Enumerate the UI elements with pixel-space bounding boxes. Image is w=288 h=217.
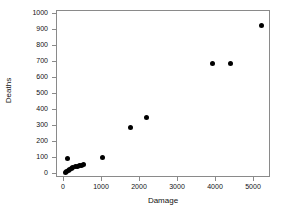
- plot-panel: [56, 10, 270, 177]
- data-point: [144, 115, 149, 120]
- x-tick: [63, 177, 64, 181]
- x-tick-label: 1000: [81, 182, 121, 191]
- y-tick-label: 800: [0, 41, 48, 49]
- data-point: [228, 61, 233, 66]
- scatter-chart: 010002000300040005000 010020030040050060…: [0, 0, 288, 217]
- y-axis-title: Deaths: [4, 67, 13, 115]
- y-tick: [52, 45, 56, 46]
- y-tick: [52, 61, 56, 62]
- y-tick-label: 700: [0, 57, 48, 65]
- data-points-layer: [57, 11, 269, 176]
- data-point: [128, 125, 133, 130]
- data-point: [100, 155, 105, 160]
- data-point: [65, 156, 70, 161]
- y-tick: [52, 141, 56, 142]
- y-tick: [52, 13, 56, 14]
- x-tick: [215, 177, 216, 181]
- y-tick: [52, 109, 56, 110]
- data-point: [210, 61, 215, 66]
- data-point: [81, 162, 86, 167]
- x-tick-label: 0: [43, 182, 83, 191]
- y-tick-label: 1000: [0, 9, 48, 17]
- x-tick: [177, 177, 178, 181]
- x-tick: [253, 177, 254, 181]
- data-point: [259, 23, 264, 28]
- x-tick-label: 3000: [157, 182, 197, 191]
- y-tick: [52, 157, 56, 158]
- y-tick: [52, 173, 56, 174]
- x-tick-label: 2000: [119, 182, 159, 191]
- x-tick: [139, 177, 140, 181]
- x-tick-label: 4000: [195, 182, 235, 191]
- y-tick: [52, 93, 56, 94]
- x-tick-label: 5000: [233, 182, 273, 191]
- x-tick: [101, 177, 102, 181]
- y-tick-label: 0: [0, 169, 48, 177]
- y-tick: [52, 77, 56, 78]
- x-axis-title: Damage: [56, 196, 270, 205]
- y-tick-label: 900: [0, 25, 48, 33]
- y-tick-label: 300: [0, 121, 48, 129]
- y-tick-label: 200: [0, 137, 48, 145]
- y-tick: [52, 125, 56, 126]
- y-tick-label: 100: [0, 153, 48, 161]
- y-tick: [52, 29, 56, 30]
